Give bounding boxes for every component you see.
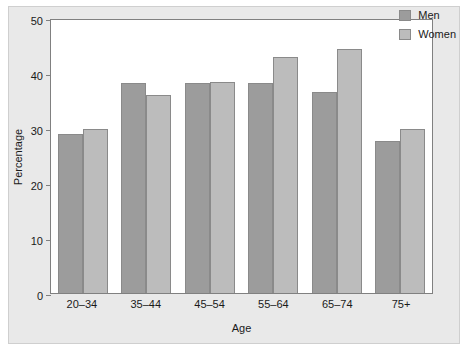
y-axis-tick-mark bbox=[46, 130, 51, 131]
x-axis-tick-label: 45–54 bbox=[178, 298, 242, 310]
x-axis-title: Age bbox=[50, 322, 433, 334]
bar-men bbox=[312, 92, 337, 293]
bar-group bbox=[115, 20, 179, 293]
y-axis-tick-mark bbox=[46, 20, 51, 21]
y-axis-tick-label: 0 bbox=[37, 290, 43, 302]
y-axis-tick: 40 bbox=[31, 66, 51, 84]
plot-inner bbox=[51, 20, 432, 293]
bar-men bbox=[248, 83, 273, 293]
legend-swatch bbox=[399, 29, 411, 40]
bar-women bbox=[210, 82, 235, 293]
y-axis-tick-label: 40 bbox=[31, 70, 43, 82]
bar-group bbox=[305, 20, 369, 293]
bar-men bbox=[185, 83, 210, 293]
bar-group bbox=[242, 20, 306, 293]
y-axis-tick-mark bbox=[46, 75, 51, 76]
x-axis-tick-label: 20–34 bbox=[50, 298, 114, 310]
bar-women bbox=[83, 129, 108, 293]
y-axis-tick-label: 50 bbox=[31, 15, 43, 27]
y-axis-tick-mark bbox=[46, 240, 51, 241]
bar-group bbox=[369, 20, 433, 293]
x-axis-tick-label: 35–44 bbox=[114, 298, 178, 310]
y-axis-tick: 0 bbox=[37, 286, 51, 304]
bar-women bbox=[146, 95, 171, 293]
y-axis-tick-label: 30 bbox=[31, 125, 43, 137]
y-axis-tick-mark bbox=[46, 185, 51, 186]
bar-group bbox=[51, 20, 115, 293]
x-axis-tick-label: 65–74 bbox=[305, 298, 369, 310]
legend-item-women: Women bbox=[399, 28, 456, 40]
bar-women bbox=[337, 49, 362, 293]
y-axis-title: Percentage bbox=[12, 129, 24, 185]
bar-men bbox=[58, 134, 83, 293]
legend-label: Women bbox=[418, 28, 456, 40]
bar-men bbox=[121, 83, 146, 293]
chart-figure: Prevalence of Obesity by Sex and Age Per… bbox=[0, 0, 468, 353]
bar-women bbox=[400, 129, 425, 293]
x-axis-tick-labels: 20–3435–4445–5455–6465–7475+ bbox=[50, 298, 433, 310]
y-axis-tick: 10 bbox=[31, 231, 51, 249]
x-axis-tick-label: 55–64 bbox=[241, 298, 305, 310]
y-axis-tick: 50 bbox=[31, 11, 51, 29]
bar-men bbox=[375, 141, 400, 293]
bar-women bbox=[273, 57, 298, 293]
legend-item-men: Men bbox=[399, 9, 456, 21]
legend-label: Men bbox=[418, 9, 439, 21]
bar-group bbox=[178, 20, 242, 293]
legend-swatch bbox=[399, 10, 411, 21]
bar-groups bbox=[51, 20, 432, 293]
x-axis-tick-label: 75+ bbox=[369, 298, 433, 310]
y-axis-tick-label: 10 bbox=[31, 235, 43, 247]
y-axis-tick: 20 bbox=[31, 176, 51, 194]
y-axis-tick-label: 20 bbox=[31, 180, 43, 192]
plot-area: 01020304050 bbox=[50, 19, 433, 294]
chart-legend: MenWomen bbox=[399, 9, 456, 40]
y-axis-tick: 30 bbox=[31, 121, 51, 139]
y-axis-tick-mark bbox=[46, 295, 51, 296]
